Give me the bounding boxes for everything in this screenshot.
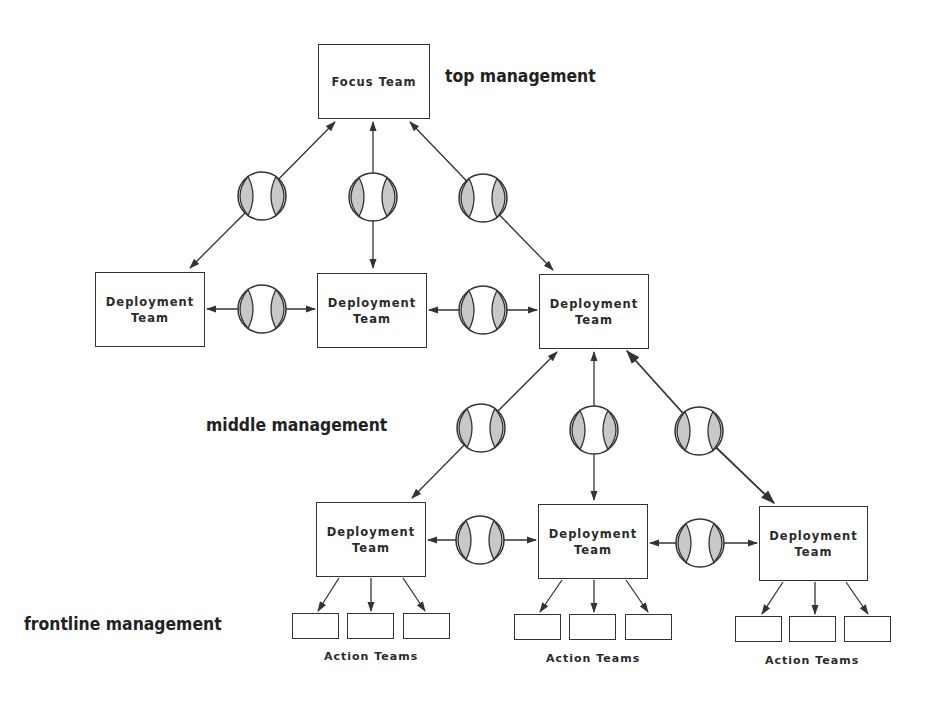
deployment-team-box: Deployment Team: [316, 502, 426, 577]
action-teams-label: Action Teams: [546, 652, 640, 665]
action-team-box: [347, 613, 394, 639]
action-team-box: [569, 614, 616, 640]
action-team-box: [514, 614, 561, 640]
deployment-team-label: Deployment Team: [769, 528, 857, 560]
ball-connector-icon: [459, 174, 507, 222]
action-teams-label: Action Teams: [324, 650, 418, 663]
ball-connector-icon: [676, 519, 724, 567]
level-label-middle: middle management: [206, 415, 387, 435]
deployment-team-label: Deployment Team: [327, 524, 415, 556]
level-label-top: top management: [445, 66, 596, 86]
action-team-box: [844, 616, 891, 642]
ball-connector-icon: [457, 404, 505, 452]
action-team-box: [292, 613, 339, 639]
deployment-team-label: Deployment Team: [106, 294, 194, 326]
deployment-team-box: Deployment Team: [95, 272, 205, 347]
deployment-team-box: Deployment Team: [317, 273, 427, 348]
deployment-team-box: Deployment Team: [539, 274, 649, 349]
action-team-box: [625, 614, 672, 640]
focus-team-box: Focus Team: [318, 44, 430, 119]
level-label-frontline: frontline management: [24, 614, 222, 634]
deployment-team-label: Deployment Team: [549, 526, 637, 558]
deployment-team-box: Deployment Team: [538, 504, 648, 579]
action-team-box: [403, 613, 450, 639]
focus-team-label: Focus Team: [331, 74, 416, 90]
connections-layer: [0, 0, 944, 704]
ball-connector-icon: [349, 173, 397, 221]
ball-connector-icon: [456, 516, 504, 564]
action-team-box: [789, 616, 836, 642]
deployment-team-label: Deployment Team: [328, 295, 416, 327]
action-team-box: [735, 616, 782, 642]
ball-connector-icon: [570, 406, 618, 454]
deployment-team-label: Deployment Team: [550, 296, 638, 328]
action-teams-label: Action Teams: [765, 654, 859, 667]
deployment-team-box: Deployment Team: [759, 506, 868, 581]
ball-connector-icon: [238, 172, 286, 220]
ball-connector-icon: [675, 407, 723, 455]
ball-connector-icon: [238, 285, 286, 333]
ball-connector-icon: [459, 286, 507, 334]
